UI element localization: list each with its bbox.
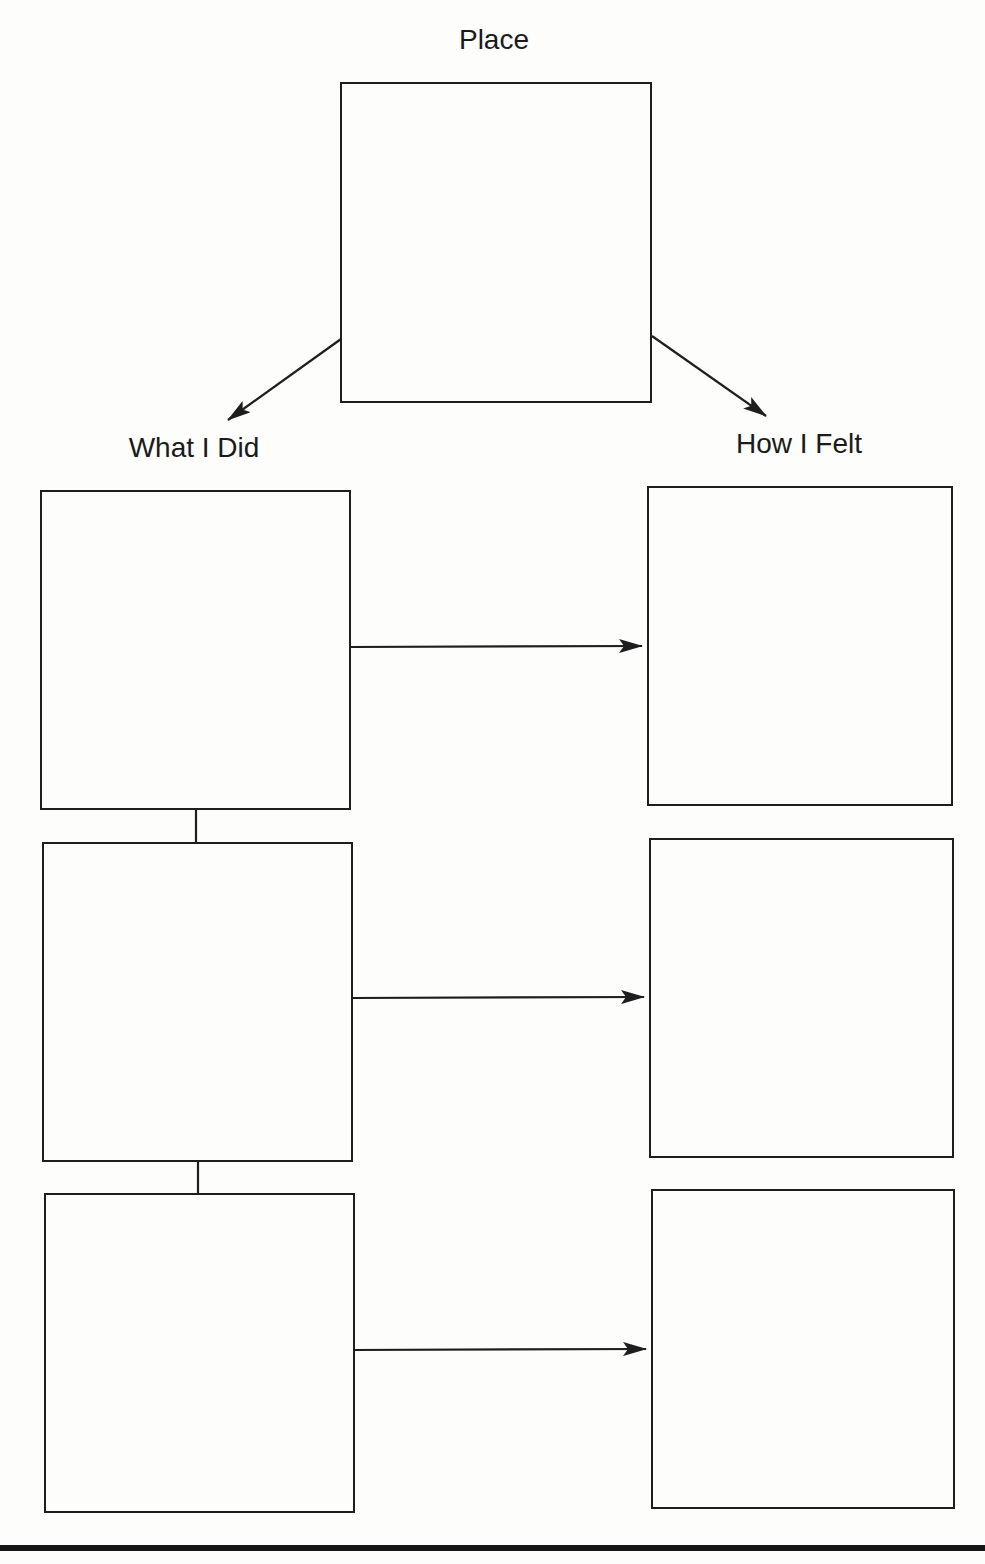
arrow-did3-to-felt3 (353, 1349, 646, 1350)
what-i-did-box-2[interactable] (42, 842, 353, 1162)
how-i-felt-box-3[interactable] (651, 1189, 955, 1509)
arrow-did1-to-felt1 (350, 646, 642, 647)
place-box[interactable] (340, 82, 652, 403)
arrow-place-to-did (228, 339, 341, 420)
how-i-felt-box-2[interactable] (649, 838, 954, 1158)
what-i-did-box-3[interactable] (44, 1193, 355, 1513)
arrow-did2-to-felt2 (352, 997, 644, 998)
how-i-felt-box-1[interactable] (647, 486, 953, 806)
what-i-did-box-1[interactable] (40, 490, 351, 810)
arrow-place-to-felt (652, 336, 766, 416)
bottom-rule-divider (0, 1545, 985, 1551)
